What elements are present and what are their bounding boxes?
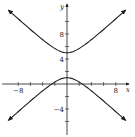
x-tick-label: −8: [13, 87, 23, 95]
y-axis-label: y: [59, 3, 65, 11]
y-tick-label: 8: [60, 31, 64, 39]
y-tick-label: −4: [54, 106, 65, 114]
x-tick-label: 8: [114, 87, 118, 95]
hyperbola-plot: −8884−4xy: [0, 0, 135, 137]
y-tick-label: 4: [60, 56, 65, 64]
x-axis-label: x: [126, 86, 130, 94]
tick-labels: −8884−4xy: [13, 3, 130, 114]
